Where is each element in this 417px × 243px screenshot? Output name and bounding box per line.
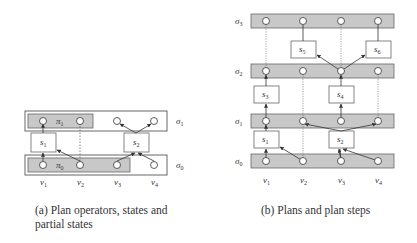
- sigma1-label: σ1: [235, 116, 242, 127]
- variable-node: [40, 162, 47, 169]
- sigma3-label: σ3: [235, 16, 242, 27]
- variable-node: [151, 118, 158, 125]
- caption-a-line2: partial states: [35, 217, 168, 231]
- v1-label: v1: [40, 177, 47, 188]
- v3-label: v3: [338, 175, 345, 186]
- v2-label: v2: [77, 177, 84, 188]
- v4-label: v4: [151, 177, 158, 188]
- variable-node: [114, 118, 121, 125]
- diagram-b: σ3 σ2 σ1 σ0 s5 s6 s3 s4 s1 s2 v1 v2 v3 v…: [235, 14, 394, 186]
- v4-label: v4: [375, 175, 382, 186]
- variable-node: [40, 118, 47, 125]
- variable-node: [77, 162, 84, 169]
- diagram-a: π1 π0 s1 s2 σ1 σ0 v1 v2 v3 v4: [25, 111, 183, 188]
- variable-node: [151, 162, 158, 169]
- state-band-sigma0: [251, 154, 394, 168]
- caption-a-line1: (a) Plan operators, states and: [35, 203, 168, 217]
- v1-label: v1: [263, 175, 270, 186]
- caption-b: (b) Plans and plan steps: [261, 203, 370, 217]
- state-band-sigma3: [251, 14, 394, 28]
- caption-a: (a) Plan operators, states and partial s…: [35, 203, 168, 231]
- variable-node: [114, 162, 121, 169]
- variable-node: [77, 118, 84, 125]
- v3-label: v3: [114, 177, 121, 188]
- sigma2-label: σ2: [235, 66, 242, 77]
- state-band-sigma1: [251, 114, 394, 128]
- sigma0-label: σ0: [176, 160, 183, 171]
- sigma0-label: σ0: [235, 156, 242, 167]
- v2-label: v2: [300, 175, 307, 186]
- state-band-sigma2: [251, 64, 394, 78]
- sigma1-label: σ1: [176, 116, 183, 127]
